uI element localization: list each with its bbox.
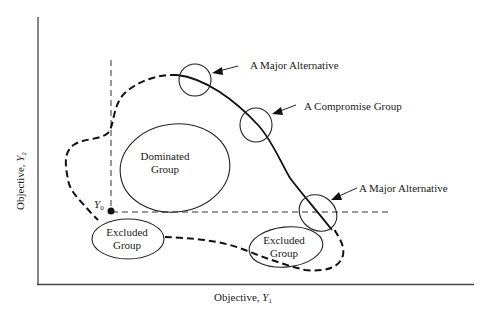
callout-label-major-alternative-bottom: A Major Alternative xyxy=(359,182,448,194)
callout-arrow-major-top xyxy=(212,66,238,75)
excluded-group-left-label-line2: Group xyxy=(113,239,142,251)
excluded-group-right-label-line2: Group xyxy=(270,247,299,259)
nondominated-frontier-curve xyxy=(177,75,332,230)
compromise-group-circle xyxy=(240,108,272,142)
reference-point-label: Y0 xyxy=(94,198,104,212)
callout-label-major-alternative-top: A Major Alternative xyxy=(250,59,339,71)
reference-point-dot xyxy=(108,208,115,215)
callout-arrow-compromise xyxy=(272,105,296,115)
dominated-group-label-line1: Dominated xyxy=(141,150,190,162)
x-axis-label: Objective, Y1 xyxy=(214,291,272,305)
objective-space-diagram: Objective, Y1 Objective, Y2 Y0 Dominated… xyxy=(0,0,491,314)
feasible-boundary-dashed-curve xyxy=(66,75,177,220)
y-axis-label: Objective, Y2 xyxy=(14,152,28,210)
excluded-group-right-label-line1: Excluded xyxy=(263,234,305,246)
callout-arrow-major-bottom xyxy=(331,188,357,200)
callout-label-compromise-group: A Compromise Group xyxy=(304,100,402,112)
axes xyxy=(37,17,474,285)
excluded-group-left-label-line1: Excluded xyxy=(106,226,148,238)
dominated-group-label-line2: Group xyxy=(151,163,180,175)
feasible-boundary-dashed-curve-bottom xyxy=(165,229,343,270)
